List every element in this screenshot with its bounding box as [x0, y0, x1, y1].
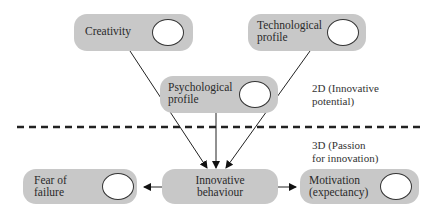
label-line: Motivation	[309, 174, 360, 186]
rating-oval	[327, 19, 359, 46]
label-line: failure	[34, 186, 64, 198]
rating-oval	[152, 19, 184, 46]
label-line: Innovative	[195, 174, 244, 186]
node-creativity: Creativity	[74, 14, 193, 51]
label-line: profile	[168, 93, 199, 105]
node-label: Creativity	[85, 25, 131, 37]
label-line: (expectancy)	[309, 186, 368, 198]
node-label: Psychological profile	[168, 81, 233, 105]
annotation-2d: 2D (Innovative potential)	[312, 82, 379, 107]
rating-oval	[239, 81, 271, 108]
label-line: Psychological	[168, 81, 233, 93]
rating-oval	[380, 173, 412, 200]
node-psychological-profile: Psychological profile	[160, 76, 278, 113]
node-label: Innovative behaviour	[162, 174, 278, 198]
label-line: Fear of	[34, 174, 67, 186]
annotation-line: for innovation)	[312, 152, 378, 164]
annotation-line: 3D (Passion	[312, 139, 365, 151]
node-innovative-behaviour: Innovative behaviour	[162, 169, 278, 204]
node-motivation: Motivation (expectancy)	[300, 169, 419, 204]
node-technological-profile: Technological profile	[248, 14, 366, 51]
label-line: profile	[257, 31, 288, 43]
node-fear-of-failure: Fear of failure	[23, 169, 137, 204]
annotation-line: potential)	[312, 95, 354, 107]
node-label: Motivation (expectancy)	[309, 174, 368, 198]
rating-oval	[102, 173, 134, 200]
label-line: Technological	[257, 19, 322, 31]
label-line: behaviour	[197, 186, 243, 198]
annotation-line: 2D (Innovative	[312, 82, 379, 94]
node-label: Technological profile	[257, 19, 322, 43]
node-label: Fear of failure	[34, 174, 67, 198]
annotation-3d: 3D (Passion for innovation)	[312, 139, 378, 164]
